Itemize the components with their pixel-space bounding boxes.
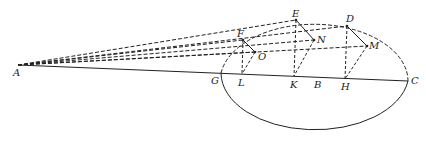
label-o: O [258, 52, 266, 62]
label-f: F [237, 29, 244, 39]
diagram-drawing [0, 0, 426, 141]
label-c: C [411, 76, 419, 86]
label-k: K [290, 80, 297, 90]
label-h: H [341, 82, 350, 92]
label-b: B [314, 80, 321, 90]
label-m: M [369, 41, 379, 51]
label-g: G [211, 76, 219, 86]
label-e: E [292, 9, 299, 19]
geometry-diagram: A G L K B H C F E D O N M [0, 0, 426, 141]
label-d: D [346, 14, 354, 24]
label-n: N [317, 35, 326, 45]
rays-from-a [18, 20, 367, 65]
label-l: L [238, 78, 245, 88]
label-a: A [13, 68, 20, 78]
